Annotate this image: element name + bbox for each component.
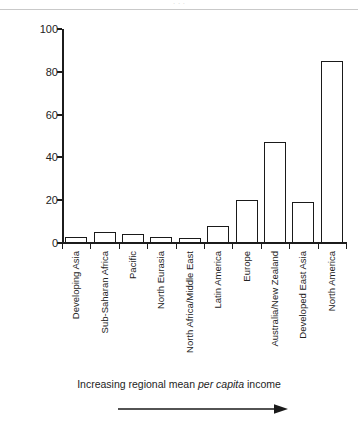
y-tick-label: 40	[46, 151, 58, 163]
y-tick-label: 60	[46, 109, 58, 121]
y-tick-label: 80	[46, 66, 58, 78]
bar	[207, 226, 229, 243]
x-tick-mark	[232, 244, 233, 249]
x-tick-label: Sub-Saharan Africa	[100, 251, 110, 333]
y-tick-label: 20	[46, 194, 58, 206]
clipped-header-text: · · ·	[0, 0, 358, 9]
x-tick-mark	[119, 244, 120, 249]
x-tick-label: Developing Asia	[71, 251, 81, 319]
y-tick-label: 0	[52, 237, 58, 249]
bar	[236, 200, 258, 243]
bar	[65, 237, 87, 243]
caption-pre: Increasing regional mean	[77, 378, 198, 390]
x-tick-label: North America	[327, 251, 337, 311]
x-tick-mark	[289, 244, 290, 249]
plot-area: 020406080100	[62, 29, 346, 243]
x-tick-label: Pacific	[128, 251, 138, 279]
bar-chart-figure: % overall conservation cost currently me…	[0, 10, 358, 423]
figure-caption: Increasing regional mean per capita inco…	[0, 378, 358, 390]
x-tick-mark	[147, 244, 148, 249]
y-tick-label: 100	[40, 23, 58, 35]
x-tick-label: Latin America	[213, 251, 223, 309]
x-tick-mark	[176, 244, 177, 249]
x-tick-mark	[261, 244, 262, 249]
right-arrow-icon	[118, 402, 288, 416]
x-tick-mark	[346, 244, 347, 249]
bar	[292, 202, 314, 243]
x-tick-label: Australia/New Zealand	[270, 251, 280, 347]
bar	[321, 61, 343, 243]
x-tick-label: North Eurasia	[156, 251, 166, 309]
bar	[122, 234, 144, 243]
x-tick-mark	[62, 244, 63, 249]
bar	[150, 237, 172, 243]
x-tick-label: Developed East Asia	[298, 251, 308, 339]
x-tick-mark	[90, 244, 91, 249]
caption-italic: per capita	[198, 378, 244, 390]
bar	[179, 238, 201, 243]
x-tick-label: Europe	[242, 251, 252, 282]
x-tick-mark	[204, 244, 205, 249]
caption-post: income	[244, 378, 281, 390]
x-tick-label: North Africa/Middle East	[185, 251, 195, 353]
bar	[94, 232, 116, 243]
bar	[264, 142, 286, 243]
x-tick-mark	[318, 244, 319, 249]
